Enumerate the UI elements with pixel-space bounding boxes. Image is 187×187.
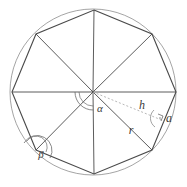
- beta-angle-arc-inner: [27, 136, 47, 152]
- label-h: h: [139, 98, 145, 112]
- apothem-dashed-line: [93, 92, 164, 121]
- geometry-figure: α β h r a: [0, 0, 187, 187]
- label-r: r: [129, 123, 134, 137]
- h-r-angle-arc: [150, 110, 155, 127]
- label-beta: β: [37, 148, 44, 160]
- right-angle-dot: [159, 117, 160, 118]
- radius-to-top: [93, 10, 94, 92]
- radius-to-bottom: [93, 92, 94, 174]
- radius-to-upper-right: [93, 34, 152, 92]
- label-a: a: [166, 111, 172, 125]
- radius-to-upper-left: [36, 34, 93, 92]
- label-alpha: α: [97, 102, 103, 114]
- geometry-canvas: α β h r a: [0, 0, 187, 187]
- radius-to-lower-left: [36, 92, 93, 150]
